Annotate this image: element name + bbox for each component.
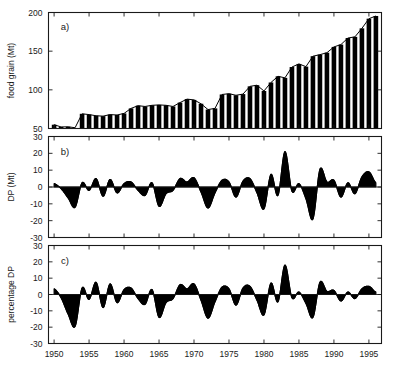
panel-a-ytick-label-150: 150 xyxy=(28,46,42,56)
figure-container: 50100150200a)food grain (Mt)-30-20-10010… xyxy=(0,0,396,374)
xtick-label-1950: 1950 xyxy=(45,349,64,359)
bar-1978 xyxy=(248,86,253,128)
bar-1977 xyxy=(241,94,246,128)
bar-1976 xyxy=(234,95,239,128)
bar-1989 xyxy=(325,53,330,129)
bar-1980 xyxy=(262,91,267,129)
bar-1974 xyxy=(220,94,225,128)
panel-a-ylabel: food grain (Mt) xyxy=(6,43,16,98)
bar-1975 xyxy=(227,94,232,129)
panel-a-ytick-label-200: 200 xyxy=(28,8,42,18)
bar-1968 xyxy=(178,103,183,129)
xtick-label-1960: 1960 xyxy=(115,349,134,359)
xtick-label-1980: 1980 xyxy=(255,349,274,359)
panel-ytick-label--20: -20 xyxy=(30,216,43,226)
panel-ytick-label--10: -10 xyxy=(30,199,43,209)
xtick-label-1990: 1990 xyxy=(324,349,343,359)
panel-ytick-label--30: -30 xyxy=(30,339,43,349)
xtick-label-1985: 1985 xyxy=(289,349,308,359)
panel-ytick-label--10: -10 xyxy=(30,306,43,316)
figure-svg: 50100150200a)food grain (Mt)-30-20-10010… xyxy=(0,0,396,374)
bar-1996 xyxy=(374,16,379,129)
bar-1987 xyxy=(311,56,316,128)
bar-1991 xyxy=(339,45,344,129)
panel-c-fill xyxy=(54,265,376,327)
panel-a-ytick-label-100: 100 xyxy=(28,85,42,95)
bar-1992 xyxy=(346,38,351,128)
panel-ytick-label-0: 0 xyxy=(38,290,43,300)
bar-1970 xyxy=(192,100,197,129)
bar-1979 xyxy=(255,85,260,128)
panel-b-fill xyxy=(54,152,376,220)
panel-ytick-label-30: 30 xyxy=(33,241,43,251)
bar-1959 xyxy=(115,115,120,129)
xtick-label-1995: 1995 xyxy=(359,349,378,359)
bar-1969 xyxy=(185,99,190,128)
bar-1956 xyxy=(94,116,99,129)
xtick-label-1970: 1970 xyxy=(185,349,204,359)
bar-1982 xyxy=(276,76,281,128)
panel-ytick-label-10: 10 xyxy=(33,273,43,283)
bar-1985 xyxy=(297,64,302,129)
bar-1972 xyxy=(206,110,211,129)
xtick-label-1975: 1975 xyxy=(220,349,239,359)
bar-1967 xyxy=(171,106,176,128)
bar-1964 xyxy=(150,105,155,128)
panel-ylabel-2: percentage DP xyxy=(6,266,16,323)
bar-1958 xyxy=(108,115,113,129)
panel-tag-1: b) xyxy=(61,146,69,157)
bar-1984 xyxy=(290,67,295,128)
bar-1994 xyxy=(360,28,365,128)
bar-1983 xyxy=(283,78,288,129)
bar-1995 xyxy=(367,19,372,129)
xtick-label-1965: 1965 xyxy=(150,349,169,359)
bar-1963 xyxy=(143,106,148,128)
bar-1962 xyxy=(136,106,141,129)
panel-ylabel-1: DP (Mt) xyxy=(6,172,16,201)
bar-1973 xyxy=(213,108,218,128)
bar-1961 xyxy=(129,108,134,128)
bar-1988 xyxy=(318,55,323,129)
panel-ytick-label-20: 20 xyxy=(33,148,43,158)
panel-ytick-label-20: 20 xyxy=(33,257,43,267)
bar-1990 xyxy=(332,47,337,129)
panel-ytick-label--20: -20 xyxy=(30,322,43,332)
bar-1981 xyxy=(269,82,274,128)
bar-1993 xyxy=(353,37,358,129)
bar-1971 xyxy=(199,104,204,129)
bar-1966 xyxy=(164,105,169,128)
panel-a-tag: a) xyxy=(61,21,69,32)
bar-1957 xyxy=(101,116,106,128)
panel-tag-2: c) xyxy=(61,255,69,266)
bar-1986 xyxy=(304,67,309,129)
panel-ytick-label-0: 0 xyxy=(38,182,43,192)
xtick-label-1955: 1955 xyxy=(80,349,99,359)
panel-ytick-label-10: 10 xyxy=(33,165,43,175)
panel-ytick-label-30: 30 xyxy=(33,132,43,142)
